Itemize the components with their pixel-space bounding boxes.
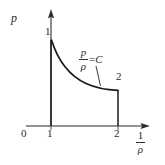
y-axis-label: p (11, 12, 17, 24)
x-axis-denominator: ρ (137, 144, 144, 155)
x-axis-label: 1 ρ (136, 130, 145, 155)
figure-container: p 0 1 2 1 2 p ρ = C 1 ρ (0, 0, 165, 165)
state-point-1-label: 1 (45, 26, 51, 37)
equation-constant: C (95, 54, 102, 65)
x-axis-numerator: 1 (137, 130, 145, 141)
equation-numerator: p (80, 47, 88, 58)
origin-label: 0 (21, 128, 27, 139)
x-tick-label-2: 2 (114, 128, 120, 139)
x-tick-label-1: 1 (47, 128, 53, 139)
x-axis-fraction: 1 ρ (136, 130, 145, 155)
equation-denominator: ρ (80, 61, 87, 72)
equation-fraction: p ρ (79, 47, 88, 72)
process-equation-label: p ρ = C (79, 47, 103, 72)
state-point-2-label: 2 (116, 71, 122, 82)
